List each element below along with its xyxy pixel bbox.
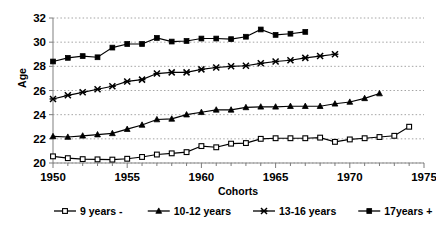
series-line-1	[53, 94, 379, 137]
data-point-2-14	[257, 60, 264, 66]
y-tick-label-30: 30	[33, 36, 46, 48]
data-point-0-8	[169, 151, 174, 156]
data-point-2-11	[213, 65, 220, 71]
x-tick-label-1970: 1970	[337, 171, 363, 183]
data-point-2-4	[109, 83, 116, 89]
legend-item-2[interactable]: 13-16 years	[253, 205, 336, 217]
data-point-3-7	[154, 36, 159, 41]
x-tick-labels: 195019551960196519701975	[40, 171, 436, 183]
x-axis-title: Cohorts	[218, 185, 258, 197]
data-point-3-14	[258, 27, 263, 32]
data-point-0-6	[140, 155, 145, 160]
y-tick-marks	[49, 18, 53, 163]
data-point-2-16	[287, 57, 294, 63]
y-gridlines	[53, 18, 424, 163]
data-point-0-22	[377, 135, 382, 140]
plot-area-container: 20222426283032 195019551960196519701975 …	[0, 0, 436, 227]
x-tick-label-1955: 1955	[114, 171, 140, 183]
data-point-0-19	[333, 139, 338, 144]
data-point-3-16	[288, 31, 293, 36]
data-point-2-10	[198, 66, 205, 72]
chart-legend: 9 years -10-12 years13-16 years17years +	[54, 205, 432, 217]
y-tick-labels: 20222426283032	[33, 12, 46, 169]
data-point-2-19	[332, 51, 339, 57]
y-tick-label-32: 32	[33, 12, 46, 24]
chart-figure: 20222426283032 195019551960196519701975 …	[0, 0, 436, 227]
y-tick-label-26: 26	[33, 85, 46, 97]
data-point-0-11	[214, 145, 219, 150]
data-point-2-17	[302, 55, 309, 61]
legend-marker-0	[63, 209, 68, 214]
legend-label-3: 17years +	[384, 205, 432, 217]
data-point-0-24	[407, 124, 412, 129]
data-point-2-18	[317, 53, 324, 59]
data-point-0-2	[80, 157, 85, 162]
data-point-0-13	[244, 141, 249, 146]
data-point-0-14	[258, 136, 263, 141]
legend-marker-3	[367, 209, 372, 214]
data-point-0-4	[110, 157, 115, 162]
series-group	[50, 27, 412, 162]
data-point-0-3	[95, 157, 100, 162]
series-2	[50, 51, 339, 102]
data-point-2-1	[64, 92, 71, 98]
data-point-2-5	[124, 78, 131, 84]
data-point-0-17	[303, 136, 308, 141]
data-point-3-10	[199, 36, 204, 41]
legend-item-1[interactable]: 10-12 years	[148, 205, 231, 217]
data-point-1-22	[377, 90, 383, 95]
data-point-3-9	[184, 39, 189, 44]
x-tick-label-1975: 1975	[411, 171, 436, 183]
data-point-3-8	[169, 39, 174, 44]
data-point-0-12	[229, 141, 234, 146]
data-point-3-2	[80, 54, 85, 59]
data-point-0-9	[184, 150, 189, 155]
data-point-2-8	[168, 69, 175, 75]
data-point-0-5	[125, 156, 130, 161]
data-point-3-0	[51, 59, 56, 64]
data-point-2-9	[183, 69, 190, 75]
data-point-0-10	[199, 144, 204, 149]
data-point-2-7	[153, 71, 160, 77]
legend-marker-2	[261, 208, 268, 214]
data-point-3-3	[95, 55, 100, 60]
legend-label-0: 9 years -	[80, 205, 123, 217]
data-point-2-15	[272, 59, 279, 65]
legend-label-2: 13-16 years	[279, 205, 336, 217]
series-3	[51, 27, 308, 64]
data-point-3-4	[110, 45, 115, 50]
data-point-0-16	[288, 136, 293, 141]
x-tick-marks	[53, 163, 424, 168]
data-point-3-6	[140, 42, 145, 47]
data-point-3-12	[229, 37, 234, 42]
data-point-3-13	[244, 34, 249, 39]
data-point-2-3	[94, 86, 101, 92]
data-point-0-15	[273, 136, 278, 141]
data-point-2-12	[228, 63, 235, 69]
data-point-2-6	[139, 77, 146, 83]
data-point-2-13	[243, 63, 250, 69]
data-point-0-20	[347, 137, 352, 142]
data-point-0-0	[51, 154, 56, 159]
data-point-3-5	[125, 42, 130, 47]
data-point-3-15	[273, 33, 278, 38]
data-point-3-1	[65, 55, 70, 60]
data-point-0-21	[362, 136, 367, 141]
y-tick-label-22: 22	[33, 133, 46, 145]
data-point-0-23	[392, 133, 397, 138]
x-tick-label-1965: 1965	[263, 171, 289, 183]
line-chart-svg: 20222426283032 195019551960196519701975 …	[0, 0, 436, 227]
y-tick-label-28: 28	[33, 60, 46, 72]
legend-item-0[interactable]: 9 years -	[54, 205, 123, 217]
data-point-3-17	[303, 29, 308, 34]
legend-label-1: 10-12 years	[174, 205, 231, 217]
y-axis-title: Age	[16, 68, 28, 88]
x-tick-label-1950: 1950	[40, 171, 66, 183]
legend-item-3[interactable]: 17years +	[358, 205, 432, 217]
data-point-0-7	[154, 152, 159, 157]
x-tick-label-1960: 1960	[189, 171, 215, 183]
data-point-0-18	[318, 135, 323, 140]
series-0	[51, 124, 412, 162]
data-point-0-1	[65, 156, 70, 161]
y-tick-label-24: 24	[33, 109, 46, 121]
